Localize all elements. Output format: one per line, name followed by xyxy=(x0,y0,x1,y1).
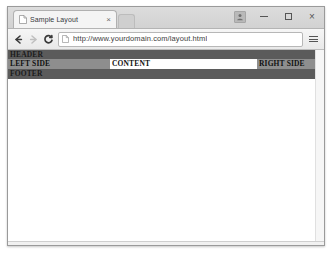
minimize-icon xyxy=(260,16,268,17)
document-icon xyxy=(62,35,69,43)
person-icon xyxy=(234,11,246,23)
layout-header: HEADER xyxy=(8,50,324,59)
tab-title: Sample Layout xyxy=(30,15,104,24)
page-icon xyxy=(19,15,27,24)
page-viewport: HEADER LEFT SIDE CONTENT RIGHT SIDE FOOT… xyxy=(8,50,324,245)
layout-left-sidebar: LEFT SIDE xyxy=(8,59,110,69)
new-tab-button[interactable] xyxy=(118,14,135,28)
back-arrow-icon xyxy=(13,34,24,45)
browser-toolbar: http://www.yourdomain.com/layout.html xyxy=(8,29,324,50)
minimize-button[interactable] xyxy=(252,7,276,26)
close-icon[interactable]: × xyxy=(104,15,113,24)
close-button[interactable]: × xyxy=(300,7,324,26)
maximize-icon xyxy=(285,13,292,20)
layout-content: CONTENT xyxy=(110,59,257,69)
url-text: http://www.yourdomain.com/layout.html xyxy=(73,34,207,44)
page-layout: HEADER LEFT SIDE CONTENT RIGHT SIDE FOOT… xyxy=(8,50,324,79)
maximize-button[interactable] xyxy=(276,7,300,26)
window-bottom-strip xyxy=(8,241,324,245)
reload-icon xyxy=(43,34,54,45)
back-button[interactable] xyxy=(11,31,26,47)
address-bar[interactable]: http://www.yourdomain.com/layout.html xyxy=(58,32,303,47)
layout-right-sidebar: RIGHT SIDE xyxy=(257,59,324,69)
reload-button[interactable] xyxy=(41,31,56,47)
layout-footer: FOOTER xyxy=(8,69,324,79)
tab-strip: Sample Layout × × xyxy=(8,7,324,29)
layout-middle-row: LEFT SIDE CONTENT RIGHT SIDE xyxy=(8,59,324,69)
forward-button[interactable] xyxy=(26,31,41,47)
tab-sample-layout[interactable]: Sample Layout × xyxy=(13,10,117,28)
close-icon: × xyxy=(309,12,315,22)
browser-window: Sample Layout × × xyxy=(7,6,325,246)
forward-arrow-icon xyxy=(28,34,39,45)
menu-icon[interactable] xyxy=(306,31,321,47)
window-controls: × xyxy=(228,7,324,26)
vertical-scrollbar[interactable] xyxy=(315,50,324,245)
profile-button[interactable] xyxy=(228,7,252,26)
